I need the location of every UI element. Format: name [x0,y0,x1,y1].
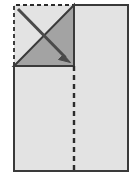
paper-fold-diagram [0,0,133,188]
fold-diagram-container [0,0,133,188]
